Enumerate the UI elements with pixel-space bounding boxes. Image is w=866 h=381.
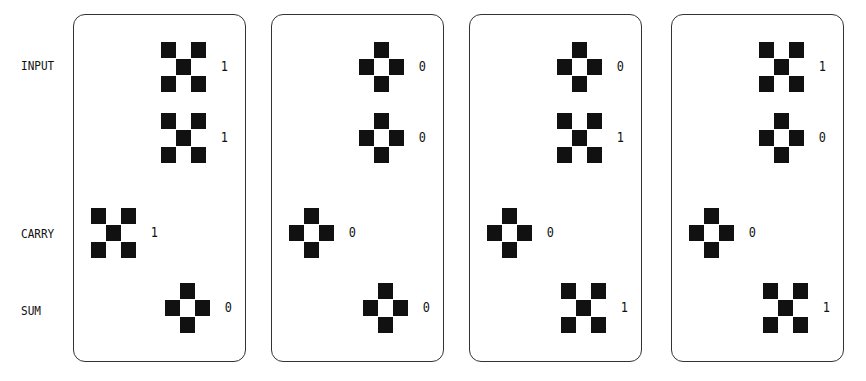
input-a-glyph-x-pattern-icon — [161, 42, 206, 92]
glyph-cell — [191, 113, 206, 129]
glyph-cell — [363, 300, 378, 316]
glyph-cell — [121, 208, 136, 224]
glyph-cell — [389, 130, 404, 146]
input-b-bit-value: 0 — [819, 129, 826, 145]
glyph-cell — [374, 147, 389, 163]
glyph-cell — [191, 76, 206, 92]
glyph-cell — [557, 59, 572, 75]
input-a-bit-value: 0 — [617, 58, 624, 74]
glyph-cell — [359, 130, 374, 146]
glyph-cell — [378, 283, 393, 299]
glyph-cell — [572, 130, 587, 146]
glyph-cell — [195, 300, 210, 316]
adder-panel-3: 0101 — [469, 14, 642, 362]
carry-glyph-x-pattern-icon — [91, 208, 136, 258]
glyph-cell — [91, 242, 106, 258]
input-b-glyph-x-pattern-icon — [557, 113, 602, 163]
glyph-cell — [572, 76, 587, 92]
glyph-cell — [774, 113, 789, 129]
carry-glyph-ring-pattern-icon — [289, 208, 334, 258]
row-label-carry: CARRY — [21, 226, 54, 241]
glyph-cell — [561, 283, 576, 299]
row-label-input: INPUT — [21, 58, 54, 73]
sum-bit-value: 0 — [225, 299, 232, 315]
input-b-glyph-ring-pattern-icon — [759, 113, 804, 163]
glyph-cell — [763, 283, 778, 299]
glyph-cell — [561, 317, 576, 333]
glyph-cell — [389, 59, 404, 75]
glyph-cell — [774, 147, 789, 163]
glyph-cell — [359, 59, 374, 75]
sum-bit-value: 1 — [621, 299, 628, 315]
glyph-cell — [759, 76, 774, 92]
input-b-glyph-ring-pattern-icon — [359, 113, 404, 163]
glyph-cell — [587, 59, 602, 75]
glyph-cell — [191, 42, 206, 58]
sum-glyph-x-pattern-icon — [763, 283, 808, 333]
sum-glyph-ring-pattern-icon — [165, 283, 210, 333]
sum-bit-value: 1 — [823, 299, 830, 315]
glyph-cell — [704, 242, 719, 258]
glyph-cell — [106, 225, 121, 241]
sum-glyph-ring-pattern-icon — [363, 283, 408, 333]
glyph-cell — [161, 76, 176, 92]
glyph-cell — [759, 130, 774, 146]
glyph-cell — [557, 147, 572, 163]
glyph-cell — [587, 147, 602, 163]
input-a-glyph-ring-pattern-icon — [557, 42, 602, 92]
glyph-cell — [161, 147, 176, 163]
glyph-cell — [778, 300, 793, 316]
glyph-cell — [393, 300, 408, 316]
input-b-bit-value: 1 — [221, 129, 228, 145]
glyph-cell — [121, 242, 136, 258]
glyph-cell — [689, 225, 704, 241]
glyph-cell — [793, 317, 808, 333]
glyph-cell — [180, 283, 195, 299]
glyph-cell — [774, 59, 789, 75]
input-b-glyph-x-pattern-icon — [161, 113, 206, 163]
carry-glyph-ring-pattern-icon — [487, 208, 532, 258]
glyph-cell — [704, 208, 719, 224]
glyph-cell — [789, 76, 804, 92]
glyph-cell — [502, 208, 517, 224]
carry-bit-value: 0 — [349, 224, 356, 240]
carry-bit-value: 1 — [151, 224, 158, 240]
glyph-cell — [374, 76, 389, 92]
carry-bit-value: 0 — [547, 224, 554, 240]
glyph-cell — [180, 317, 195, 333]
input-b-bit-value: 1 — [617, 129, 624, 145]
glyph-cell — [502, 242, 517, 258]
adder-panel-2: 0000 — [271, 14, 444, 362]
glyph-cell — [319, 225, 334, 241]
input-a-bit-value: 0 — [419, 58, 426, 74]
row-label-sum: SUM — [21, 303, 41, 318]
glyph-cell — [374, 42, 389, 58]
glyph-cell — [517, 225, 532, 241]
glyph-cell — [591, 283, 606, 299]
sum-glyph-x-pattern-icon — [561, 283, 606, 333]
glyph-cell — [572, 42, 587, 58]
input-a-glyph-x-pattern-icon — [759, 42, 804, 92]
input-b-bit-value: 0 — [419, 129, 426, 145]
adder-panel-1: 1110 — [73, 14, 246, 362]
input-a-bit-value: 1 — [819, 58, 826, 74]
sum-bit-value: 0 — [423, 299, 430, 315]
glyph-cell — [304, 242, 319, 258]
carry-glyph-ring-pattern-icon — [689, 208, 734, 258]
glyph-cell — [557, 113, 572, 129]
adder-panel-4: 1001 — [671, 14, 844, 362]
glyph-cell — [576, 300, 591, 316]
glyph-cell — [161, 113, 176, 129]
input-a-bit-value: 1 — [221, 58, 228, 74]
glyph-cell — [176, 59, 191, 75]
glyph-cell — [719, 225, 734, 241]
glyph-cell — [487, 225, 502, 241]
glyph-cell — [191, 147, 206, 163]
glyph-cell — [91, 208, 106, 224]
glyph-cell — [289, 225, 304, 241]
glyph-cell — [591, 317, 606, 333]
glyph-cell — [793, 283, 808, 299]
glyph-cell — [759, 42, 774, 58]
carry-bit-value: 0 — [749, 224, 756, 240]
glyph-cell — [378, 317, 393, 333]
